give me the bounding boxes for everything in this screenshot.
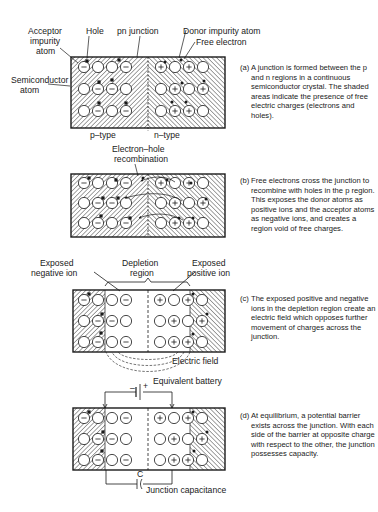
semiconductor-atom-icon: [78, 83, 89, 94]
semiconductor-atom-icon: [154, 336, 165, 347]
hole-icon: [87, 292, 90, 295]
semiconductor-atom-icon: [78, 105, 89, 116]
hole-icon: [101, 196, 104, 199]
free-electron-icon: [192, 333, 195, 336]
free-electron-icon: [203, 80, 206, 83]
recombination-label-l2: recombination: [114, 154, 168, 164]
caption-a: (a) A junction is formed between the p a…: [240, 63, 376, 121]
donor-label: Donor impurity atom: [183, 26, 260, 36]
semiconductor-atom-icon: [120, 433, 131, 444]
semiconductor-label-l1: Semiconductor: [11, 75, 68, 85]
depletion-label-l1: Depletion: [122, 258, 159, 268]
free-electron-icon: [206, 313, 209, 316]
semiconductor-label-l2: atom: [20, 85, 39, 95]
semiconductor-atom-icon: [106, 412, 117, 423]
panel-b: Electron–hole recombination: [71, 144, 225, 237]
caption-b-text: Free electrons cross the junction to rec…: [240, 176, 376, 234]
semiconductor-atom-icon: [92, 61, 103, 72]
atoms: [78, 292, 208, 347]
semiconductor-atom-icon: [155, 105, 166, 116]
semiconductor-atom-icon: [155, 197, 166, 208]
hole-icon: [110, 78, 113, 81]
hole-icon: [97, 101, 100, 104]
hole-icon: [99, 214, 102, 217]
semiconductor-atom-icon: [106, 336, 117, 347]
semiconductor-atom-icon: [168, 412, 179, 423]
semiconductor-atom-icon: [78, 433, 89, 444]
hole-icon: [124, 101, 127, 104]
depletion-label-l2: region: [130, 268, 154, 278]
hole-icon: [128, 216, 131, 219]
free-electron-icon: [142, 177, 145, 180]
semiconductor-atom-icon: [120, 315, 131, 326]
free-electron-icon: [192, 293, 195, 296]
semiconductor-atom-icon: [154, 315, 165, 326]
pn-junction-label: pn junction: [117, 26, 159, 36]
exposed-positive-label-l2: positive ion: [187, 268, 230, 278]
battery-label: Equivalent battery: [153, 376, 222, 386]
hole-icon: [100, 312, 103, 315]
caption-c-tag: (c): [240, 294, 249, 304]
p-type-label: p–type: [90, 130, 116, 140]
atoms: [78, 410, 208, 465]
panel-c: Exposed negative ion Depletion region Ex…: [31, 258, 230, 372]
caption-a-text: A junction is formed between the p and n…: [240, 63, 376, 121]
recombination-label-l1: Electron–hole: [112, 144, 165, 154]
free-electron-label: Free electron: [196, 37, 247, 47]
exposed-positive-label-l1: Exposed: [192, 258, 226, 268]
battery-plus: +: [143, 381, 148, 391]
acceptor-label-l2: impurity: [30, 36, 61, 46]
capacitance-label: Junction capacitance: [146, 485, 226, 495]
semiconductor-atom-icon: [92, 294, 103, 305]
semiconductor-atom-icon: [196, 294, 207, 305]
free-electron-icon: [192, 411, 195, 414]
semiconductor-atom-icon: [106, 454, 117, 465]
caption-d: (d) At equilibrium, a potential barrier …: [240, 411, 376, 459]
hole-icon: [114, 178, 117, 181]
semiconductor-atom-icon: [92, 177, 103, 188]
semiconductor-atom-icon: [155, 83, 166, 94]
acceptor-label-l1: Acceptor: [28, 26, 62, 36]
semiconductor-atom-icon: [78, 336, 89, 347]
hole-icon: [97, 80, 100, 83]
semiconductor-atom-icon: [155, 217, 166, 228]
free-electron-icon: [164, 61, 167, 64]
hole-icon: [101, 430, 104, 433]
panel-d: – + Equivalent battery C Junction capaci…: [73, 376, 226, 495]
caption-c-text: The exposed positive and negative ions i…: [240, 294, 376, 342]
semiconductor-atom-icon: [154, 454, 165, 465]
free-electron-icon: [181, 82, 184, 85]
battery-circuit: [103, 384, 174, 408]
semiconductor-atom-icon: [106, 294, 117, 305]
electric-field-label: Electric field: [172, 356, 219, 366]
semiconductor-atom-icon: [182, 315, 193, 326]
caption-c: (c) The exposed positive and negative io…: [240, 294, 376, 342]
exposed-negative-label-l1: Exposed: [40, 258, 74, 268]
hole-icon: [99, 331, 102, 334]
caption-d-tag: (d): [240, 411, 249, 421]
free-electron-icon: [180, 59, 183, 62]
free-electron-icon: [166, 179, 169, 182]
hole-icon: [100, 449, 103, 452]
hole-icon: [116, 196, 119, 199]
semiconductor-atom-icon: [196, 336, 207, 347]
acceptor-label-l3: atom: [36, 46, 55, 56]
free-electron-icon: [190, 182, 193, 185]
semiconductor-atom-icon: [183, 83, 194, 94]
semiconductor-atom-icon: [120, 83, 131, 94]
capacitor-symbol-label: C: [137, 469, 143, 479]
free-electron-icon: [185, 101, 188, 104]
hole-icon: [117, 58, 120, 61]
caption-d-text: At equilibrium, a potential barrier exis…: [240, 411, 376, 459]
n-type-label: n–type: [154, 130, 180, 140]
semiconductor-atom-icon: [197, 61, 208, 72]
hole-icon: [85, 59, 88, 62]
hole-label: Hole: [86, 26, 104, 36]
semiconductor-atom-icon: [196, 412, 207, 423]
free-electron-icon: [171, 101, 174, 104]
panel-a: Acceptor impurity atom Hole pn junction …: [11, 26, 260, 140]
semiconductor-atom-icon: [78, 197, 89, 208]
free-electron-icon: [192, 217, 195, 220]
semiconductor-atom-icon: [197, 217, 208, 228]
semiconductor-atom-icon: [106, 61, 117, 72]
